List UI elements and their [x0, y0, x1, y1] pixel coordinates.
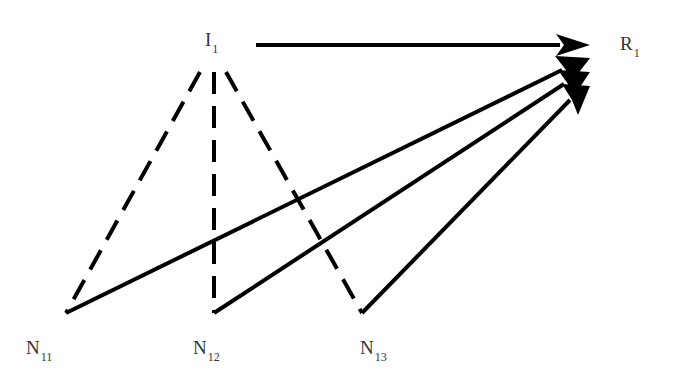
- edge-n12-r1: [214, 70, 590, 313]
- diagram-canvas: [0, 0, 676, 383]
- node-n12-label: N12: [193, 338, 220, 357]
- node-n11-label: N11: [26, 338, 52, 357]
- arrowhead-icon: [562, 84, 590, 115]
- edge-n13-r1: [362, 84, 590, 313]
- edge-i1-n11: [66, 72, 200, 313]
- node-n12-main: N: [193, 337, 207, 358]
- dashed-edges: [66, 72, 362, 313]
- edge-i1-n13: [226, 72, 362, 313]
- edge-i1-r1: [256, 34, 590, 56]
- node-r1-label: R1: [620, 34, 640, 53]
- node-i1-main: I: [205, 29, 211, 50]
- node-n13-main: N: [360, 337, 374, 358]
- node-i1-sub: 1: [212, 42, 218, 56]
- node-n11-sub: 11: [41, 350, 53, 364]
- node-i1-label: I1: [205, 30, 218, 49]
- node-r1-sub: 1: [634, 46, 640, 60]
- node-n11-main: N: [26, 337, 40, 358]
- arrowhead-icon: [556, 34, 590, 56]
- edge-n11-r1: [66, 56, 590, 313]
- node-r1-main: R: [620, 33, 633, 54]
- node-n13-sub: 13: [375, 350, 387, 364]
- node-n12-sub: 12: [208, 350, 220, 364]
- node-n13-label: N13: [360, 338, 387, 357]
